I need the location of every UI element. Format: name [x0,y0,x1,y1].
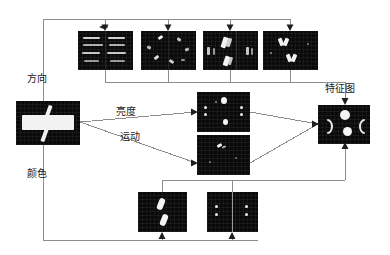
color-map-blue-yellow[interactable] [207,192,258,232]
feature-speck [307,43,309,45]
feature-bar [246,47,249,55]
luminance-conspicuity-map[interactable] [197,92,250,132]
salient-blob-bottom [343,127,352,136]
feature-dot [204,106,207,109]
feature-streak [108,37,125,39]
motion-conspicuity-map[interactable] [197,135,250,175]
feature-dot [215,213,218,216]
feature-dot [204,113,207,116]
feature-streak [82,52,100,54]
label-motion: 运动 [120,128,140,143]
diagram-canvas: 方向 颜色 亮度 运动 特征图 [0,0,390,255]
label-feature-map: 特征图 [325,80,355,95]
feature-blob [223,119,228,125]
feature-blob [221,97,227,104]
feature-streak [109,44,125,46]
feature-dot [245,213,248,216]
label-color: 颜色 [27,165,47,180]
feature-streak [84,60,99,62]
orientation-map-135deg[interactable] [263,31,318,70]
input-image[interactable] [16,101,80,145]
panel-divider [105,31,106,70]
feature-streak [107,52,126,54]
orientation-map-0deg[interactable] [78,31,133,70]
feature-dot [245,205,248,208]
feature-dot [240,106,243,109]
feature-bar [213,48,215,55]
feature-speck [270,52,272,54]
map-texture [197,135,250,175]
saliency-feature-map[interactable] [318,105,370,144]
feature-dot [240,113,243,116]
feature-streak [83,44,103,46]
feature-dot [215,101,217,103]
orientation-map-45deg[interactable] [141,31,196,70]
feature-bar [207,47,210,55]
feature-streak [110,60,125,62]
feature-dot [215,205,218,208]
feature-dot [209,161,211,163]
map-texture [263,31,318,70]
panel-divider [232,192,233,232]
label-luminance: 亮度 [116,103,136,118]
feature-streak [83,37,100,39]
label-direction: 方向 [27,70,47,85]
panel-divider [168,31,169,70]
orientation-map-90deg[interactable] [203,31,258,70]
feature-bar [251,48,253,55]
panel-divider [236,31,237,70]
feature-speck [181,59,185,61]
feature-dot [235,157,237,159]
color-map-red-green[interactable] [138,192,187,232]
salient-blob-top [340,110,350,120]
